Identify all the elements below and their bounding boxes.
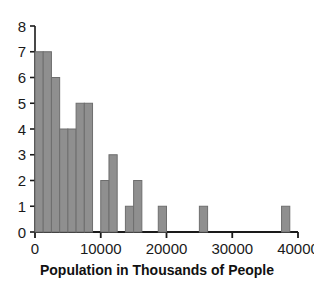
y-tick-label: 3 <box>18 146 26 163</box>
y-tick-label: 8 <box>18 18 26 35</box>
y-tick-label: 5 <box>18 95 26 112</box>
histogram-bar <box>134 181 142 233</box>
histogram-bar <box>68 129 76 232</box>
y-tick-label: 1 <box>18 198 26 215</box>
y-tick-label: 0 <box>18 224 26 241</box>
plot-area: 012345678 010000200003000040000 <box>0 0 314 286</box>
bar-series <box>35 52 290 232</box>
histogram-bar <box>158 206 166 232</box>
histogram-bar <box>35 52 43 232</box>
histogram-bar <box>76 103 84 232</box>
histogram-bar <box>199 206 207 232</box>
x-tick-label: 40000 <box>277 240 314 257</box>
y-axis: 012345678 <box>18 18 35 241</box>
x-tick-label: 10000 <box>80 240 122 257</box>
y-tick-label: 2 <box>18 172 26 189</box>
histogram-bar <box>51 78 59 233</box>
y-tick-label: 6 <box>18 69 26 86</box>
x-tick-label: 20000 <box>146 240 188 257</box>
histogram-bar <box>282 206 290 232</box>
histogram-bar <box>125 206 133 232</box>
histogram-bar <box>109 155 117 232</box>
x-axis-title: Population in Thousands of People <box>0 262 314 278</box>
histogram-chart: 012345678 010000200003000040000 Populati… <box>0 0 314 286</box>
y-tick-label: 7 <box>18 43 26 60</box>
x-axis: 010000200003000040000 <box>31 232 314 257</box>
x-tick-label: 0 <box>31 240 39 257</box>
histogram-bar <box>43 52 51 232</box>
x-tick-label: 30000 <box>211 240 253 257</box>
y-tick-label: 4 <box>18 121 26 138</box>
histogram-bar <box>60 129 68 232</box>
histogram-bar <box>84 103 92 232</box>
histogram-bar <box>101 181 109 233</box>
